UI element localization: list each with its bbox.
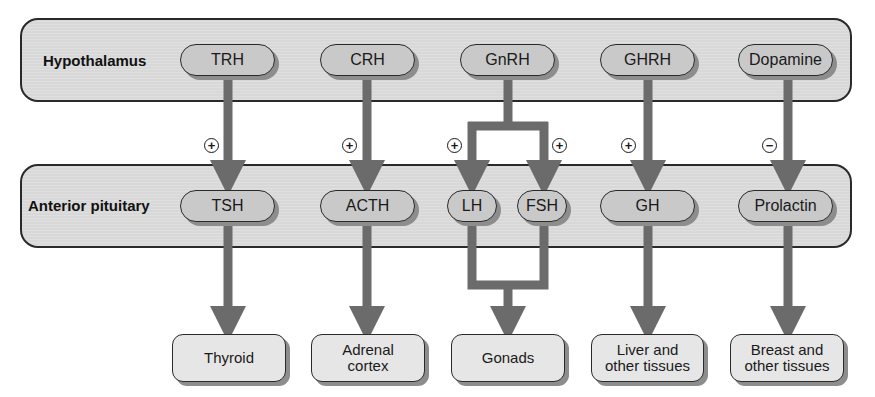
target-label-line1: Adrenal (342, 342, 394, 358)
plus-sign-icon: + (552, 138, 567, 153)
target-label-line1: Liver and (617, 342, 679, 358)
lh-fsh-merge (472, 220, 544, 285)
target-thyroid: Thyroid (172, 334, 286, 382)
target-label-line2: other tissues (605, 358, 690, 374)
target-label-line1: Thyroid (204, 350, 254, 366)
plus-sign-icon: + (342, 138, 357, 153)
hormone-fsh: FSH (517, 190, 567, 222)
hormone-lh: LH (447, 190, 497, 222)
target-breast: Breast and other tissues (730, 334, 844, 382)
hormone-gnrh: GnRH (460, 44, 555, 76)
target-liver: Liver and other tissues (591, 334, 704, 382)
hormone-acth: ACTH (320, 190, 415, 222)
target-gonads: Gonads (451, 334, 565, 382)
hormone-dopamine: Dopamine (738, 44, 833, 76)
target-adrenal-cortex: Adrenal cortex (311, 334, 425, 382)
target-label-line2: cortex (348, 358, 389, 374)
plus-sign-icon: + (204, 138, 219, 153)
hormone-trh: TRH (180, 44, 275, 76)
hormone-ghrh: GHRH (600, 44, 695, 76)
hormone-crh: CRH (320, 44, 415, 76)
target-label-line2: other tissues (744, 358, 829, 374)
hormone-tsh: TSH (180, 190, 275, 222)
hormone-gh: GH (600, 190, 695, 222)
target-label-line1: Breast and (751, 342, 824, 358)
plus-sign-icon: + (621, 138, 636, 153)
plus-sign-icon: + (447, 138, 462, 153)
hormone-prolactin: Prolactin (738, 190, 833, 222)
target-label-line1: Gonads (482, 350, 535, 366)
minus-sign-icon: − (762, 138, 777, 153)
